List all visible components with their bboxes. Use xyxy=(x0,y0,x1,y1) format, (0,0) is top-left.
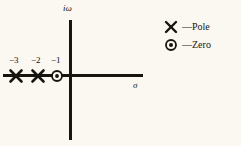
pole-zero-plot: iω σ −3 −2 −1 —Pole xyxy=(0,0,241,146)
legend-label-pole: —Pole xyxy=(182,22,210,32)
zero-circle-dot-icon xyxy=(163,37,179,53)
real-axis-line xyxy=(3,74,143,77)
zero-marker xyxy=(49,68,65,84)
pole-cross-icon xyxy=(163,19,179,35)
legend: —Pole —Zero xyxy=(163,18,241,54)
tick-label-minus-1: −1 xyxy=(51,56,61,65)
imaginary-axis-line xyxy=(69,20,72,140)
legend-item-pole: —Pole xyxy=(163,18,241,36)
real-axis-label: σ xyxy=(133,81,137,90)
legend-item-zero: —Zero xyxy=(163,36,241,54)
imaginary-axis-label: iω xyxy=(63,4,72,13)
pole-marker xyxy=(8,68,24,84)
tick-label-minus-2: −2 xyxy=(31,56,41,65)
pole-marker xyxy=(30,68,46,84)
legend-label-zero: —Zero xyxy=(182,40,211,50)
tick-label-minus-3: −3 xyxy=(9,56,19,65)
